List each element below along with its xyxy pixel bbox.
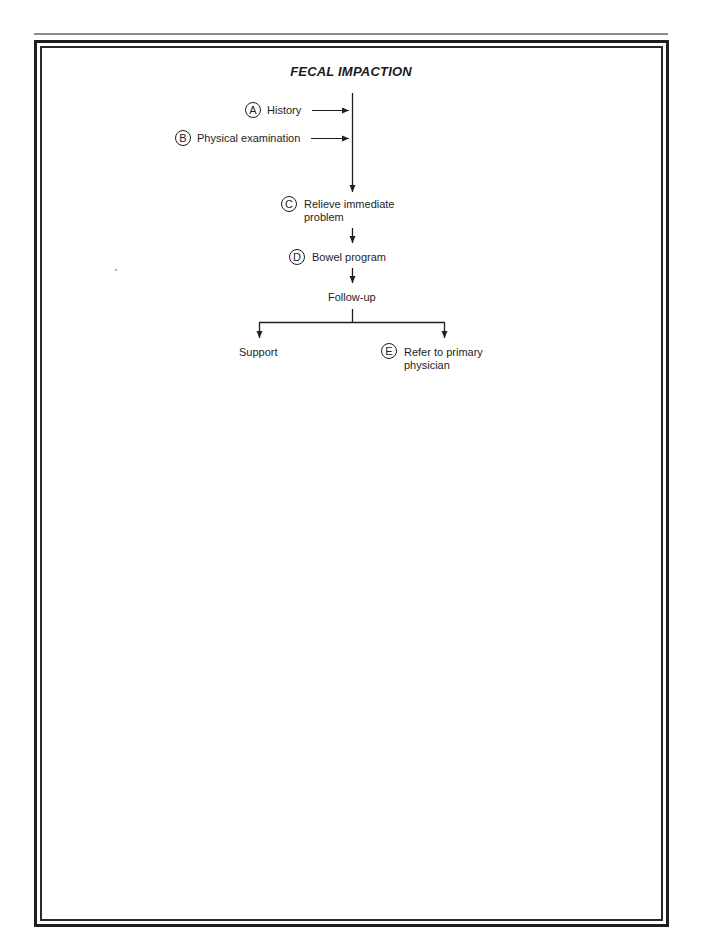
history-label: History bbox=[267, 104, 301, 117]
flowchart-connectors bbox=[0, 0, 702, 948]
step-a-badge: A bbox=[245, 102, 261, 118]
step-d-badge: D bbox=[289, 249, 305, 265]
relieve-label-line1: Relieve immediate bbox=[304, 198, 394, 211]
followup-label: Follow-up bbox=[328, 291, 376, 304]
step-b-badge: B bbox=[175, 130, 191, 146]
support-label: Support bbox=[239, 346, 278, 359]
physical-exam-label: Physical examination bbox=[197, 132, 300, 145]
refer-label-line2: physician bbox=[404, 359, 450, 372]
relieve-label-line2: problem bbox=[304, 211, 344, 224]
step-c-badge: C bbox=[281, 196, 297, 212]
step-e-badge: E bbox=[381, 343, 397, 359]
bowel-program-label: Bowel program bbox=[312, 251, 386, 264]
refer-label-line1: Refer to primary bbox=[404, 346, 483, 359]
scan-speck bbox=[115, 269, 117, 271]
